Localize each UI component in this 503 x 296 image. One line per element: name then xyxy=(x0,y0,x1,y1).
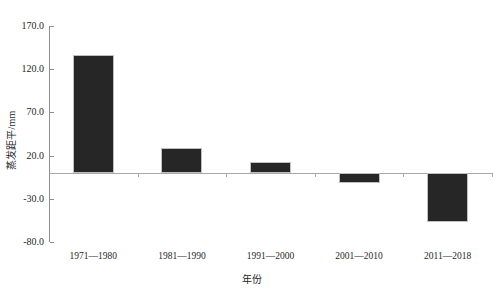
y-tick-mark xyxy=(50,199,54,200)
x-axis-tick-labels: 1971—19801981—19901991—20002001—20102011… xyxy=(49,250,492,264)
y-tick-label: 70.0 xyxy=(0,107,44,117)
y-tick-mark xyxy=(50,242,54,243)
bar xyxy=(73,55,114,173)
x-axis-title: 年份 xyxy=(0,271,503,286)
plot-area xyxy=(49,20,492,246)
x-tick-mark xyxy=(315,173,316,177)
x-axis-title-text: 年份 xyxy=(242,274,262,285)
bar xyxy=(427,173,468,222)
y-tick-mark xyxy=(50,69,54,70)
x-tick-label: 1971—1980 xyxy=(70,250,118,262)
y-tick-label: 170.0 xyxy=(0,21,44,31)
y-tick-label: -80.0 xyxy=(0,237,44,247)
bar-chart: 蒸发距平/mm 170.0120.070.020.0-30.0-80.0 197… xyxy=(0,0,503,296)
y-tick-label: 120.0 xyxy=(0,64,44,74)
x-tick-label: 1991—2000 xyxy=(247,250,295,262)
y-tick-label: -30.0 xyxy=(0,194,44,204)
y-tick-mark xyxy=(50,156,54,157)
x-tick-label: 1981—1990 xyxy=(158,250,206,262)
bar xyxy=(250,162,291,173)
x-tick-label: 2011—2018 xyxy=(424,250,471,262)
y-tick-mark xyxy=(50,26,54,27)
x-tick-label: 2001—2010 xyxy=(335,250,383,262)
bar xyxy=(161,148,202,173)
zero-baseline xyxy=(49,173,492,174)
y-tick-label: 20.0 xyxy=(0,151,44,161)
x-tick-mark xyxy=(226,173,227,177)
x-tick-mark xyxy=(138,173,139,177)
y-axis-tick-labels: 170.0120.070.020.0-30.0-80.0 xyxy=(0,0,44,296)
y-tick-mark xyxy=(50,112,54,113)
x-tick-mark xyxy=(492,173,493,177)
x-tick-mark xyxy=(403,173,404,177)
y-axis-line xyxy=(49,26,50,242)
bar xyxy=(339,173,380,183)
